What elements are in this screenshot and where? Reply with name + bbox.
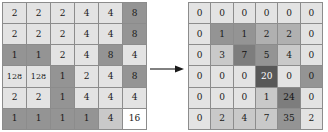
source-matrix-cell-r4c3: 1 xyxy=(51,66,74,86)
source-matrix-cell-r2c3: 2 xyxy=(51,24,74,44)
result-matrix-cell-r1c3: 0 xyxy=(234,3,255,23)
source-matrix-cell-r6c4: 1 xyxy=(75,109,98,129)
source-matrix-cell-r1c4: 4 xyxy=(75,3,98,23)
result-matrix-cell-r1c5: 0 xyxy=(278,3,299,23)
result-matrix-cell-r3c6: 0 xyxy=(301,45,322,65)
source-matrix-cell-r4c6: 8 xyxy=(123,66,146,86)
result-matrix-cell-r3c1: 0 xyxy=(189,45,210,65)
source-matrix-cell-r3c3: 2 xyxy=(51,45,74,65)
source-matrix-cell-r1c1: 2 xyxy=(3,3,26,23)
result-matrix-cell-r6c3: 4 xyxy=(234,109,255,129)
result-matrix-cell-r4c3: 0 xyxy=(234,66,255,86)
result-matrix-cell-r6c4: 7 xyxy=(256,109,277,129)
result-matrix-cell-r6c1: 0 xyxy=(189,109,210,129)
result-matrix-cell-r4c1: 0 xyxy=(189,66,210,86)
source-matrix-cell-r6c2: 1 xyxy=(27,109,50,129)
source-matrix-cell-r1c3: 2 xyxy=(51,3,74,23)
result-matrix-cell-r3c4: 5 xyxy=(256,45,277,65)
result-matrix-cell-r6c6: 2 xyxy=(301,109,322,129)
result-matrix-cell-r1c1: 0 xyxy=(189,3,210,23)
result-matrix-cell-r4c2: 0 xyxy=(211,66,232,86)
result-matrix-cell-r3c5: 4 xyxy=(278,45,299,65)
source-matrix-cell-r5c6: 4 xyxy=(123,88,146,108)
source-matrix-cell-r5c5: 4 xyxy=(99,88,122,108)
result-matrix-cell-r2c4: 2 xyxy=(256,24,277,44)
source-matrix-cell-r1c5: 4 xyxy=(99,3,122,23)
diagram-canvas: 2224482224481124841281281248221444111141… xyxy=(0,0,328,132)
source-matrix-cell-r1c6: 8 xyxy=(123,3,146,23)
source-matrix-cell-r3c4: 4 xyxy=(75,45,98,65)
arrow-right-icon xyxy=(150,60,184,72)
source-matrix-cell-r3c6: 4 xyxy=(123,45,146,65)
source-matrix-cell-r3c2: 1 xyxy=(27,45,50,65)
source-matrix-cell-r5c1: 2 xyxy=(3,88,26,108)
source-matrix-cell-r2c6: 8 xyxy=(123,24,146,44)
source-matrix-cell-r2c1: 2 xyxy=(3,24,26,44)
result-matrix-cell-r3c2: 3 xyxy=(211,45,232,65)
result-matrix-cell-r2c6: 0 xyxy=(301,24,322,44)
result-matrix-cell-r3c3: 7 xyxy=(234,45,255,65)
result-matrix-cell-r6c5: 35 xyxy=(278,109,299,129)
source-matrix-cell-r2c2: 2 xyxy=(27,24,50,44)
source-matrix-cell-r6c1: 1 xyxy=(3,109,26,129)
source-matrix-cell-r4c5: 4 xyxy=(99,66,122,86)
source-matrix-cell-r4c1: 128 xyxy=(3,66,26,86)
result-matrix-cell-r4c6: 0 xyxy=(301,66,322,86)
result-matrix-cell-r5c2: 0 xyxy=(211,88,232,108)
result-matrix-cell-r5c1: 0 xyxy=(189,88,210,108)
result-matrix-cell-r2c2: 1 xyxy=(211,24,232,44)
result-matrix-cell-r6c2: 2 xyxy=(211,109,232,129)
result-matrix-cell-r2c5: 2 xyxy=(278,24,299,44)
result-matrix-cell-r5c5: 24 xyxy=(278,88,299,108)
source-matrix-cell-r2c5: 4 xyxy=(99,24,122,44)
source-matrix-cell-r4c4: 2 xyxy=(75,66,98,86)
source-matrix-cell-r5c4: 4 xyxy=(75,88,98,108)
result-matrix-cell-r2c1: 0 xyxy=(189,24,210,44)
result-matrix-cell-r4c5: 0 xyxy=(278,66,299,86)
result-matrix-cell-r1c2: 0 xyxy=(211,3,232,23)
source-matrix-cell-r3c1: 1 xyxy=(3,45,26,65)
source-matrix-cell-r4c2: 128 xyxy=(27,66,50,86)
source-matrix-cell-r5c3: 1 xyxy=(51,88,74,108)
result-matrix-cell-r5c4: 1 xyxy=(256,88,277,108)
source-matrix-cell-r5c2: 2 xyxy=(27,88,50,108)
source-matrix-cell-r3c5: 8 xyxy=(99,45,122,65)
result-matrix-cell-r1c4: 0 xyxy=(256,3,277,23)
result-matrix-cell-r4c4: 20 xyxy=(256,66,277,86)
result-matrix-cell-r5c3: 0 xyxy=(234,88,255,108)
result-matrix-cell-r1c6: 0 xyxy=(301,3,322,23)
source-matrix-cell-r2c4: 4 xyxy=(75,24,98,44)
result-matrix-cell-r5c6: 0 xyxy=(301,88,322,108)
source-matrix-cell-r6c5: 4 xyxy=(99,109,122,129)
source-matrix-cell-r6c6: 16 xyxy=(123,109,146,129)
source-matrix-grid: 2224482224481124841281281248221444111141… xyxy=(2,2,147,130)
source-matrix-cell-r6c3: 1 xyxy=(51,109,74,129)
result-matrix-cell-r2c3: 1 xyxy=(234,24,255,44)
source-matrix-cell-r1c2: 2 xyxy=(27,3,50,23)
result-matrix-grid: 000000011220037540000200000012400247352 xyxy=(188,2,323,130)
